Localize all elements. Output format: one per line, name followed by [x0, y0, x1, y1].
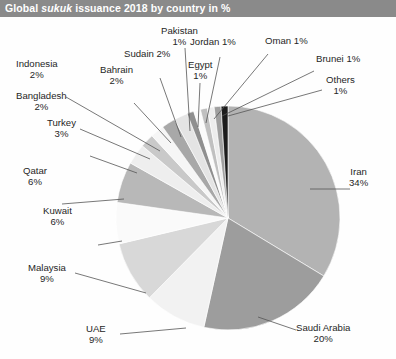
pie-chart-area: Iran 34% Saudi Arabia 20% UAE 9% Malaysi… — [0, 17, 396, 359]
label-pakistan-name: Pakistan — [161, 25, 198, 36]
label-egypt-name: Egypt — [188, 59, 213, 70]
label-qatar: Qatar 6% — [23, 165, 47, 188]
label-iran-name: Iran — [350, 166, 367, 177]
label-bangladesh-value: 2% — [16, 101, 67, 112]
label-oman-name: Oman 1% — [265, 35, 308, 46]
label-saudi-arabia: Saudi Arabia 20% — [296, 322, 350, 345]
leader-line-others — [228, 90, 322, 116]
label-kuwait: Kuwait 6% — [43, 205, 72, 228]
page-title: Global sukuk issuance 2018 by country in… — [0, 0, 230, 17]
title-part-pre: Global — [5, 2, 41, 14]
label-bahrain-name: Bahrain — [100, 64, 133, 75]
leader-line-qatar — [62, 199, 124, 204]
label-brunei-name: Brunei 1% — [316, 53, 360, 64]
chart-header-bar: Global sukuk issuance 2018 by country in… — [0, 0, 396, 17]
label-sudain: Sudain 2% — [124, 48, 170, 59]
label-malaysia-name: Malaysia — [28, 262, 66, 273]
label-malaysia: Malaysia 9% — [28, 262, 66, 285]
label-indonesia: Indonesia 2% — [16, 58, 58, 81]
label-others-name: Others — [326, 74, 355, 85]
label-turkey-name: Turkey — [47, 117, 76, 128]
label-kuwait-name: Kuwait — [43, 205, 72, 216]
label-saudi-arabia-name: Saudi Arabia — [296, 322, 350, 333]
label-qatar-name: Qatar — [23, 165, 47, 176]
leader-line-uae — [120, 328, 186, 334]
label-saudi-arabia-value: 20% — [296, 333, 350, 344]
label-others: Others 1% — [326, 74, 355, 97]
label-sudain-name: Sudain 2% — [124, 48, 170, 59]
label-indonesia-name: Indonesia — [16, 58, 58, 69]
label-uae: UAE 9% — [86, 323, 106, 346]
label-malaysia-value: 9% — [28, 273, 66, 284]
chart-page: Global sukuk issuance 2018 by country in… — [0, 0, 396, 359]
title-part-post: issuance 2018 by country in % — [72, 2, 230, 14]
title-part-emphasis: sukuk — [41, 2, 72, 14]
label-uae-name: UAE — [86, 323, 106, 334]
label-turkey-value: 3% — [47, 128, 76, 139]
leader-line-brunei — [222, 71, 314, 116]
label-iran-value: 34% — [349, 177, 368, 188]
label-bahrain-value: 2% — [100, 75, 133, 86]
label-indonesia-value: 2% — [16, 69, 58, 80]
label-others-value: 1% — [326, 85, 355, 96]
label-brunei: Brunei 1% — [316, 53, 360, 64]
label-kuwait-value: 6% — [43, 216, 72, 227]
label-jordan: Jordan 1% — [190, 36, 236, 47]
label-bangladesh: Bangladesh 2% — [16, 90, 67, 113]
label-iran: Iran 34% — [349, 166, 368, 189]
label-bangladesh-name: Bangladesh — [16, 90, 67, 101]
label-egypt: Egypt 1% — [188, 59, 213, 82]
leader-line-bangladesh — [80, 129, 150, 159]
label-oman: Oman 1% — [265, 35, 308, 46]
label-bahrain: Bahrain 2% — [100, 64, 133, 87]
leader-line-kuwait — [98, 241, 122, 245]
pie-slices — [116, 106, 340, 330]
label-qatar-value: 6% — [23, 176, 47, 187]
label-turkey: Turkey 3% — [47, 117, 76, 140]
label-uae-value: 9% — [86, 334, 106, 345]
label-egypt-value: 1% — [188, 70, 213, 81]
label-jordan-name: Jordan 1% — [190, 36, 236, 47]
